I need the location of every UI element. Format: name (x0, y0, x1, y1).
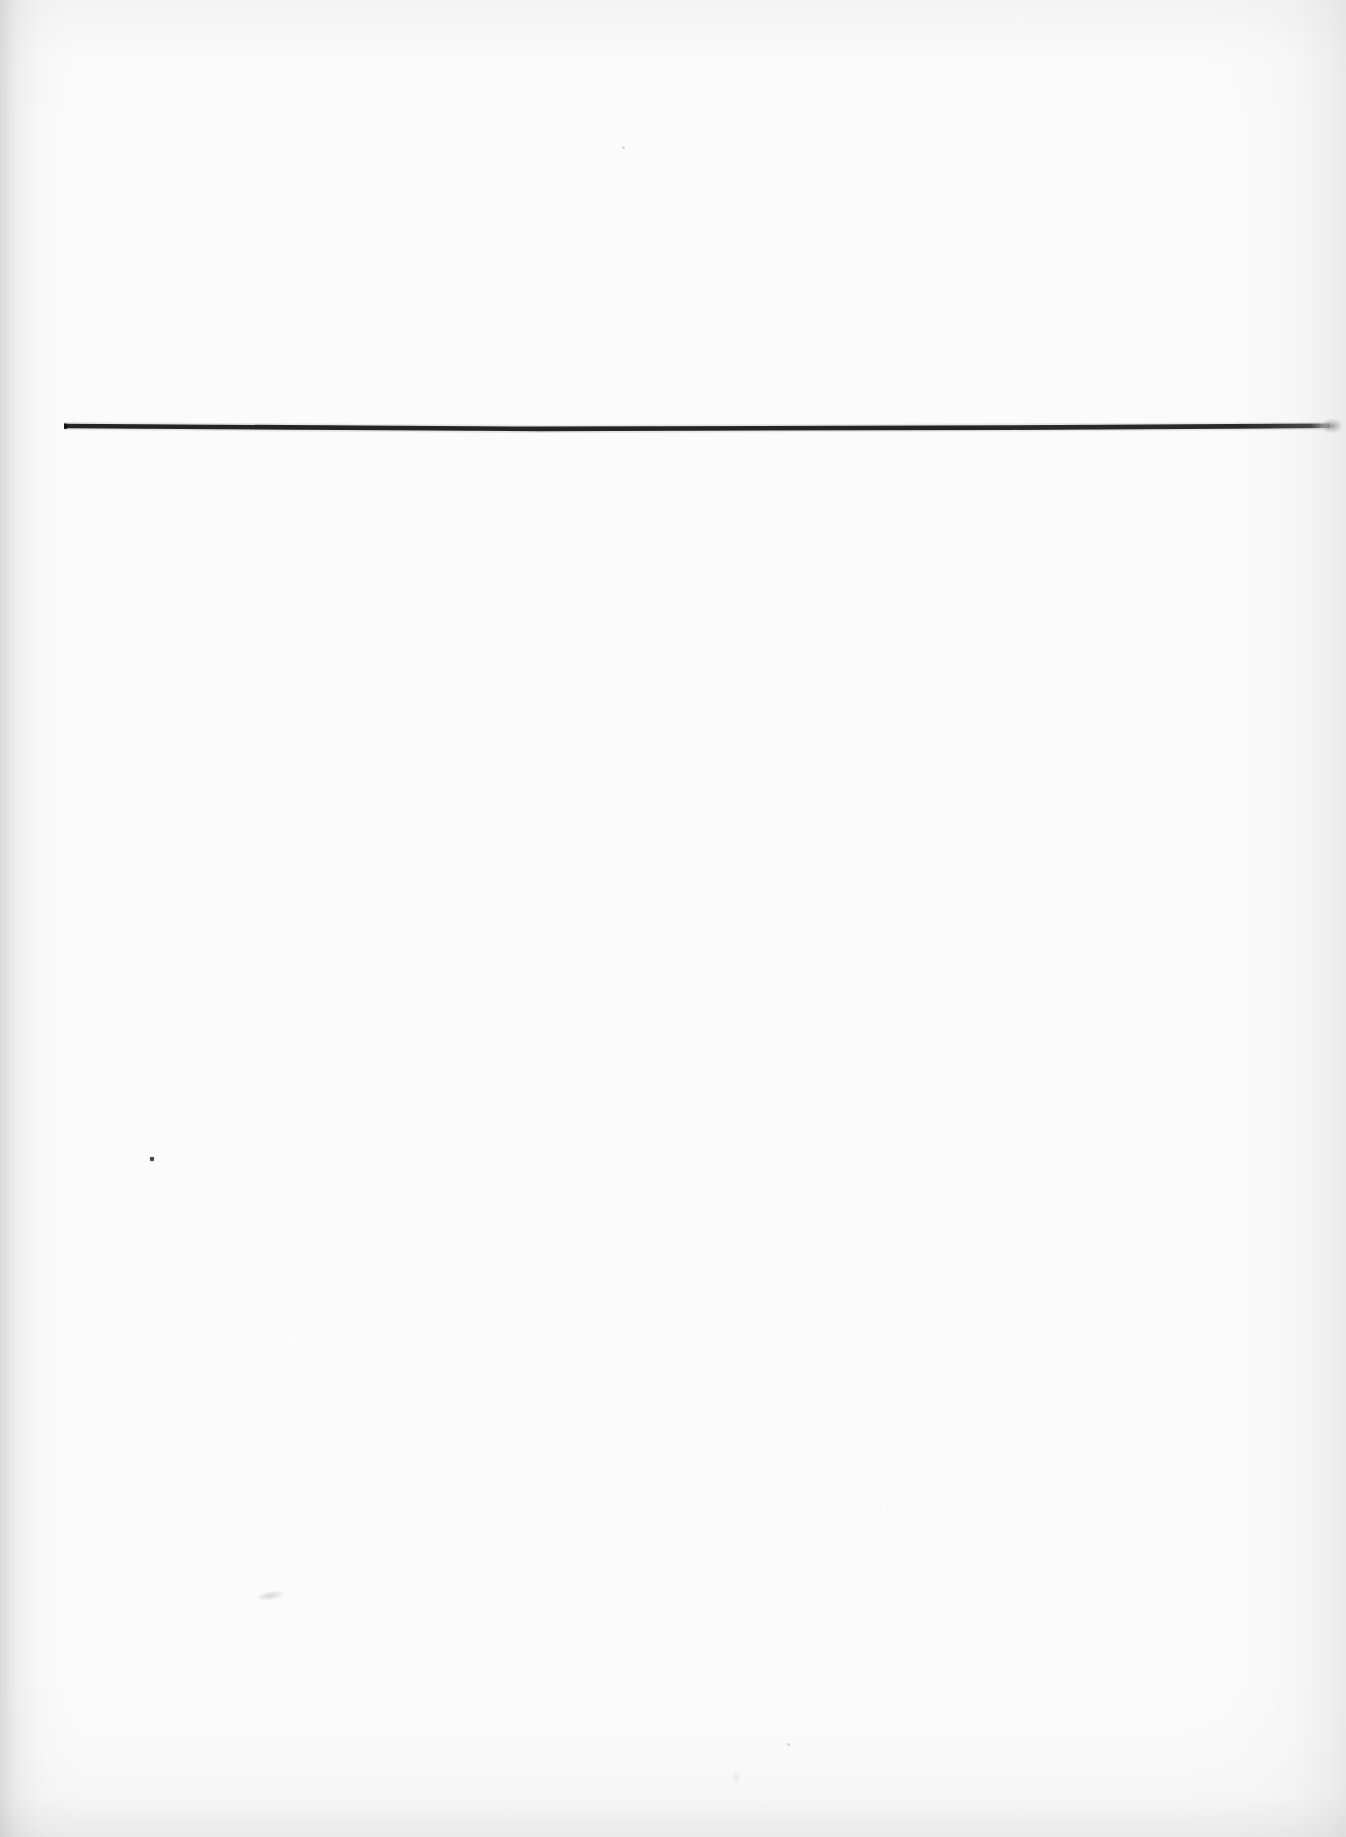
faint-smudge-secondary (731, 1770, 741, 1786)
horizontal-rule (0, 0, 1346, 1837)
faint-smudge (257, 1589, 284, 1602)
faint-speck-upper (622, 146, 625, 149)
ink-speck (150, 1157, 154, 1161)
right-edge-shadow (1226, 0, 1346, 1837)
scanned-page (0, 0, 1346, 1837)
bottom-edge-shadow (0, 1747, 1346, 1837)
paper-grain-texture (0, 0, 1346, 1837)
faint-speck-lower (787, 1743, 790, 1746)
top-edge-shadow (0, 0, 1346, 60)
left-edge-shadow (0, 0, 64, 1837)
